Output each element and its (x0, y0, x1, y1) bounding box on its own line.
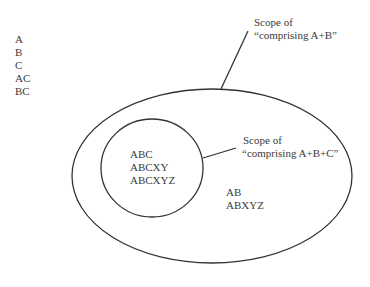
outside-item: C (15, 59, 30, 72)
outer-scope-leader-line (221, 31, 248, 89)
inner-scope-label: Scope of “comprising A+B+C” (242, 134, 338, 160)
inner-scope-leader-line (203, 148, 236, 158)
outside-item: AC (15, 72, 30, 85)
outer-scope-label-line1: Scope of (254, 16, 337, 29)
outside-item: BC (15, 85, 30, 98)
inner-item: ABCXYZ (130, 174, 175, 187)
outer-item: ABXYZ (226, 199, 264, 212)
outside-item: A (15, 33, 30, 46)
inner-scope-items: ABC ABCXY ABCXYZ (130, 148, 175, 187)
inner-scope-label-line1: Scope of (242, 134, 338, 147)
outer-scope-ellipse (72, 89, 352, 263)
inner-item: ABC (130, 148, 175, 161)
outer-item: AB (226, 186, 264, 199)
outer-scope-items: AB ABXYZ (226, 186, 264, 212)
inner-item: ABCXY (130, 161, 175, 174)
outer-scope-label-line2: “comprising A+B” (254, 29, 337, 42)
inner-scope-label-line2: “comprising A+B+C” (242, 147, 338, 160)
outer-scope-label: Scope of “comprising A+B” (254, 16, 337, 42)
outside-list: A B C AC BC (15, 33, 30, 98)
outside-item: B (15, 46, 30, 59)
